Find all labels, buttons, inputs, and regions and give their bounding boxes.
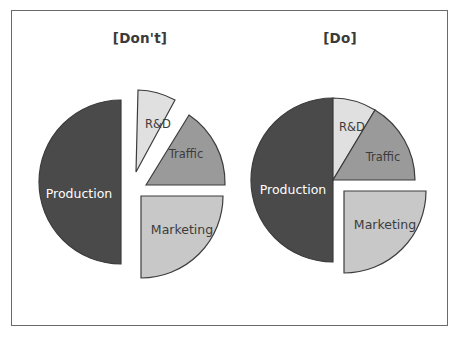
pie-dont-label-traffic: Traffic (168, 147, 204, 161)
pie-do-slice-production[interactable] (251, 98, 333, 262)
pie-do-label-production: Production (260, 182, 327, 197)
pie-dont-slice-marketing[interactable] (141, 196, 223, 278)
pie-do-svg: Production R&D Traffic Marketing (245, 85, 445, 280)
pie-dont-label-marketing: Marketing (151, 222, 213, 237)
pie-dont-slice-production[interactable] (39, 100, 121, 264)
pie-do-slice-marketing[interactable] (344, 191, 426, 273)
pie-chart-do: Production R&D Traffic Marketing (245, 85, 445, 280)
pie-chart-dont: Production R&D Traffic Marketing (22, 82, 242, 282)
pie-dont-label-rd: R&D (145, 117, 171, 131)
panel-title-dont: [Don't] (60, 30, 220, 46)
pie-do-label-traffic: Traffic (365, 150, 401, 164)
figure-container: [Don't] [Do] Production R&D Traffic Mark… (0, 0, 463, 348)
pie-dont-svg: Production R&D Traffic Marketing (22, 82, 242, 282)
pie-do-label-marketing: Marketing (354, 217, 416, 232)
pie-dont-label-production: Production (46, 186, 113, 201)
pie-do-label-rd: R&D (339, 120, 365, 134)
panel-title-do: [Do] (260, 30, 420, 46)
